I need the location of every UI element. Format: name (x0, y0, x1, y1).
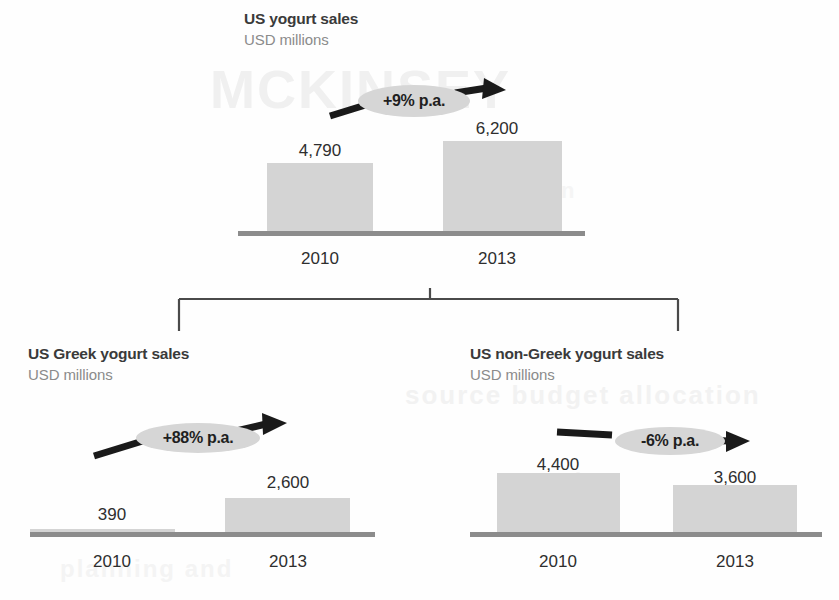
bar-nongreek-2010 (497, 473, 620, 533)
growth-pill-nongreek-label: -6% p.a. (641, 432, 699, 450)
figure-canvas: MCKINSEY source budget allocation planni… (0, 0, 839, 600)
growth-pill-nongreek: -6% p.a. (615, 427, 725, 455)
bar-value-nongreek-2010: 4,400 (508, 455, 608, 475)
year-label-nongreek-2013: 2013 (685, 552, 785, 572)
bar-nongreek-2013 (673, 485, 797, 533)
year-label-nongreek-2010: 2010 (508, 552, 608, 572)
baseline-nongreek (470, 532, 822, 537)
